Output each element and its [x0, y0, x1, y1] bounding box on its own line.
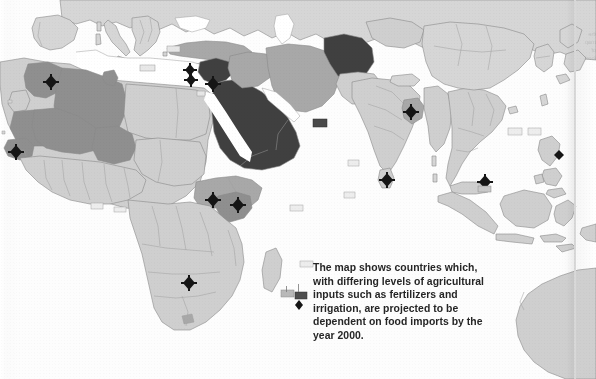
chip-yellow-sea	[528, 128, 541, 135]
region-myanmar	[424, 86, 452, 152]
region-sumatra	[438, 192, 498, 234]
region-taiwan	[540, 94, 548, 106]
chip-north-africa	[167, 46, 180, 52]
caption-line-1: The map shows countries which,	[313, 261, 509, 275]
caption-line-2: with differing levels of agricultural	[313, 275, 509, 289]
page-edge	[574, 0, 576, 379]
region-china-east-asia	[422, 22, 534, 90]
region-nepal	[390, 74, 420, 86]
region-canary-islands	[8, 100, 12, 103]
region-lesser-sunda	[540, 234, 566, 242]
region-nicobar-islands	[433, 174, 437, 182]
chip-mozambique	[281, 290, 294, 297]
chip-east-china-sea	[508, 128, 522, 135]
bleed-line-4: food	[586, 55, 596, 61]
region-black-sea	[175, 16, 210, 32]
region-australia	[516, 268, 596, 379]
region-syria-lebanon-israel	[198, 58, 234, 84]
caption-line-4: irrigation, are projected to be	[313, 302, 509, 316]
bleed-line-2: map	[585, 39, 596, 45]
region-borneo	[500, 190, 552, 228]
caption-line-3: inputs such as fertilizers and	[313, 288, 509, 302]
caption-line-6: year 2000.	[313, 329, 509, 343]
bleed-through-text: the map of food	[578, 30, 596, 100]
chip-indian-ocean	[290, 205, 303, 211]
chip-libya	[197, 91, 205, 96]
region-hainan	[508, 106, 518, 114]
region-cape-verde-islands	[2, 131, 5, 134]
chip-gulf-of-guinea	[114, 207, 126, 212]
bleed-line-1: the	[589, 31, 596, 37]
chip-madagascar	[300, 261, 313, 267]
region-indochina	[446, 88, 506, 186]
region-new-guinea	[580, 224, 596, 242]
chip-mediterranean	[140, 65, 155, 71]
chip-red-sea	[344, 192, 355, 198]
chip-south-china-sea	[478, 186, 491, 192]
scanned-page: .ln { stroke:#8a8a8a; stroke-width:0.6; …	[0, 0, 596, 379]
bleed-line-3: of	[592, 47, 596, 53]
region-andaman-islands	[432, 156, 436, 166]
chip-caption-left	[295, 292, 307, 299]
region-philippines	[534, 136, 566, 198]
map-caption: The map shows countries which, with diff…	[313, 261, 509, 343]
chip-atlantic	[91, 203, 103, 209]
region-java	[496, 234, 534, 244]
region-lesotho	[182, 314, 194, 324]
caption-line-5: dependent on food imports by the	[313, 315, 509, 329]
region-india	[352, 78, 420, 174]
region-madagascar	[262, 248, 282, 292]
chip-gulf-of-oman	[313, 119, 327, 127]
chip-arabian-sea	[348, 160, 359, 166]
